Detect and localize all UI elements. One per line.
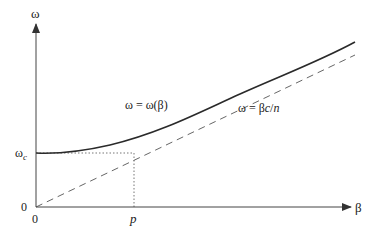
origin-y-label: 0 xyxy=(21,200,27,214)
p-label: p xyxy=(129,211,137,226)
y-axis-label: ω xyxy=(31,6,40,21)
light-line-label: ω = βc/n xyxy=(238,101,279,115)
x-axis-label: β xyxy=(355,200,362,215)
dispersion-diagram: ω β 0 0 ωc p ω = ω(β) ω = βc/n xyxy=(0,0,375,234)
omega-c-label: ωc xyxy=(15,146,27,162)
curve-label: ω = ω(β) xyxy=(125,98,168,112)
origin-x-label: 0 xyxy=(32,212,38,226)
dispersion-curve xyxy=(36,42,355,153)
light-line xyxy=(36,55,355,207)
